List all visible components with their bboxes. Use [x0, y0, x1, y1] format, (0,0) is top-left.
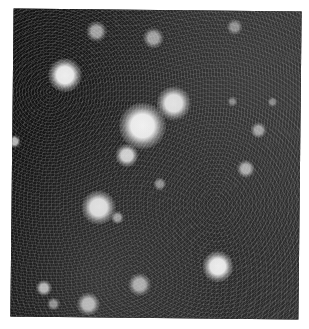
star	[10, 135, 20, 148]
star	[227, 19, 243, 35]
star	[143, 27, 164, 48]
star	[36, 280, 52, 296]
star	[157, 86, 191, 120]
star	[202, 251, 234, 283]
star	[227, 97, 237, 107]
star	[47, 297, 60, 310]
star	[77, 292, 101, 316]
star	[48, 58, 82, 92]
star	[128, 273, 152, 297]
star-field-photo	[10, 9, 301, 320]
star	[250, 122, 266, 138]
star	[267, 97, 277, 107]
star	[115, 144, 139, 168]
star	[86, 21, 107, 42]
star	[111, 211, 124, 224]
star	[153, 177, 166, 190]
star	[237, 160, 255, 178]
